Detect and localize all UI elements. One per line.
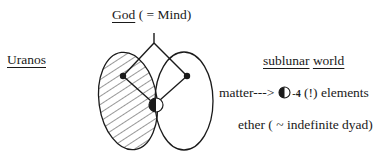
matter-label: matter---> -4 (!) elements bbox=[219, 86, 369, 100]
matter-count: -4 bbox=[292, 88, 300, 99]
sublunar-world-label: sublunar world bbox=[263, 54, 344, 68]
half-filled-circle-icon bbox=[278, 86, 291, 99]
god-word: God bbox=[112, 7, 135, 22]
world-word: world bbox=[313, 53, 345, 68]
matter-text: matter---> bbox=[219, 85, 274, 100]
matter-symbol-center bbox=[149, 98, 163, 112]
uranos-label: Uranos bbox=[7, 53, 46, 67]
matter-elements: (!) elements bbox=[301, 85, 369, 100]
sublunar-world-ellipse bbox=[155, 52, 213, 150]
venn-diagram bbox=[0, 0, 391, 160]
sublunar-word: sublunar bbox=[263, 53, 310, 68]
god-gloss: ( = Mind) bbox=[135, 7, 191, 22]
ether-label: ether ( ~ indefinite dyad) bbox=[238, 118, 373, 132]
left-node-dot bbox=[120, 73, 126, 79]
right-node-dot bbox=[184, 73, 190, 79]
god-label: God ( = Mind) bbox=[112, 8, 191, 22]
